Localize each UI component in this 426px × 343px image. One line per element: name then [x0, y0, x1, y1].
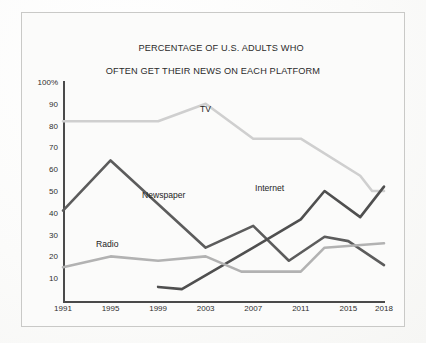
y-tick-label: 60: [49, 165, 63, 174]
x-tick-label: 2003: [197, 304, 215, 313]
x-tick-label: 2007: [244, 304, 262, 313]
y-tick-label: 20: [49, 252, 63, 261]
y-tick-label: 90: [49, 99, 63, 108]
x-tick-label: 2011: [292, 304, 309, 313]
chart-plot-lines: [63, 82, 384, 300]
x-axis-line: [63, 301, 385, 303]
x-tick-label: 1995: [102, 304, 120, 313]
y-tick-label: 10: [49, 274, 63, 283]
chart-title-line-1: PERCENTAGE OF U.S. ADULTS WHO: [138, 43, 303, 53]
y-tick-label: 40: [49, 208, 63, 217]
series-line-internet: [158, 187, 384, 289]
x-tick-label: 2018: [375, 304, 393, 313]
series-line-tv: [63, 104, 384, 191]
series-label-internet: Internet: [255, 183, 284, 193]
x-axis-ticks: 19911995199920032007201120152018: [63, 304, 384, 318]
chart-page: PERCENTAGE OF U.S. ADULTS WHO OFTEN GET …: [0, 0, 426, 343]
chart-title-line-2: OFTEN GET THEIR NEWS ON EACH PLATFORM: [22, 66, 404, 78]
series-label-radio: Radio: [96, 239, 118, 249]
series-label-newspaper: Newspaper: [142, 190, 185, 200]
y-tick-label: 30: [49, 230, 63, 239]
y-tick-label: 80: [49, 121, 63, 130]
x-tick-label: 2015: [339, 304, 357, 313]
x-tick-label: 1991: [54, 304, 72, 313]
series-line-newspaper: [63, 160, 384, 265]
series-label-tv: TV: [200, 104, 211, 114]
x-tick-label: 1999: [149, 304, 167, 313]
y-tick-label: 50: [49, 187, 63, 196]
y-tick-label: 70: [49, 143, 63, 152]
y-tick-label: 100%: [38, 78, 63, 87]
